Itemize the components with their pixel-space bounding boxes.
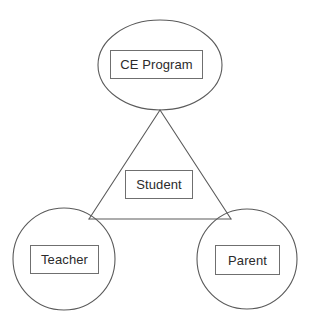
diagram-canvas xyxy=(0,0,313,326)
node-label-text-student: Student xyxy=(136,178,182,191)
connector-ce-program-to-parent[interactable] xyxy=(160,110,231,219)
relationship-diagram: CE Program Student Teacher Parent xyxy=(0,0,313,326)
node-label-text-teacher: Teacher xyxy=(41,253,88,266)
node-label-student[interactable]: Student xyxy=(125,170,193,199)
connector-ce-program-to-teacher[interactable] xyxy=(89,110,160,219)
node-label-teacher[interactable]: Teacher xyxy=(30,245,99,274)
node-label-ce-program[interactable]: CE Program xyxy=(110,50,203,79)
node-label-text-ce-program: CE Program xyxy=(120,58,193,71)
node-label-parent[interactable]: Parent xyxy=(215,245,280,275)
node-label-text-parent: Parent xyxy=(228,254,267,267)
